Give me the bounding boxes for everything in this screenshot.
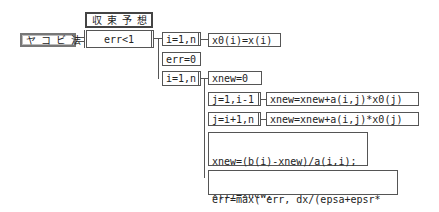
connector-loop1-to-assign [201,39,208,40]
connector-loop-body-spine [158,38,159,79]
loop-j1-box: j=1,i-1 [208,92,261,106]
connector-loop2-body-spine [204,78,205,178]
err-reset-box: err=0 [162,52,201,66]
update-block: xnew=(b(i)-xnew)/a(i,i); x(i)=xnew; dx=a… [208,132,368,166]
root-box-jacobi-method: ヤコビ法 [20,33,76,47]
assign-x0-box: x0(i)=x(i) [208,33,281,47]
update-line-1: xnew=(b(i)-xnew)/a(i,i); [212,156,364,167]
while-condition-box: err<1 [84,30,154,48]
loop2-box: i=1,n [162,71,201,86]
xnew-acc1-box: xnew=xnew+a(i,j)*x0(j) [266,92,419,106]
xnew-init-box: xnew=0 [208,71,262,85]
err-max-block: err=max( err, dx/(epsa+epsr* ( abs(xnew)… [208,170,398,195]
err-line-1: err=max( err, dx/(epsa+epsr* [212,194,394,205]
loop-j2-box: j=i+1,n [208,112,261,126]
connector-to-loop1 [154,38,162,39]
loop1-box: i=1,n [162,32,201,46]
xnew-acc2-box: xnew=xnew+a(i,j)*x0(j) [266,112,419,126]
loop-title-box: 収束予想 [85,12,153,28]
